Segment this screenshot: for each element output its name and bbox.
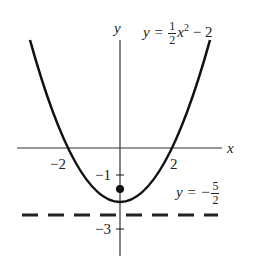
tick-label-neg3: −3	[95, 222, 111, 237]
parabola-equation-label: y = 12x2 − 2	[143, 20, 212, 46]
graph-figure: y x −2 2 −1 −3 y = 12x2 − 2 y = −52	[0, 0, 253, 268]
focus-point	[116, 185, 124, 193]
tick-label-neg1: −1	[95, 168, 111, 183]
tick-label-neg2: −2	[50, 157, 66, 172]
x-axis-label: x	[227, 141, 234, 156]
plot-area	[0, 0, 253, 268]
fraction-five-halves: 52	[211, 180, 219, 206]
tick-label-2: 2	[170, 157, 178, 172]
y-axis-label: y	[114, 21, 121, 36]
directrix-equation-label: y = −52	[176, 180, 220, 206]
fraction-one-half: 12	[168, 20, 176, 46]
